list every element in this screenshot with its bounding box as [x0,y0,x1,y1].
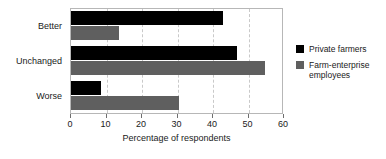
bar-unchanged-private-farmers [71,46,237,60]
x-axis-tick-labels: 0102030405060 [70,119,283,131]
x-axis-tick [141,114,142,118]
x-axis-tick-label: 30 [164,119,190,130]
bar-better-private-farmers [71,11,223,25]
x-axis-tick-label: 40 [199,119,225,130]
bar-worse-farm-enterprise-employees [71,96,179,110]
category-axis: Better Unchanged Worse [0,8,66,114]
x-axis-tick-label: 60 [270,119,296,130]
x-axis-tick-label: 20 [128,119,154,130]
bar-unchanged-farm-enterprise-employees [71,61,265,75]
bar-better-farm-enterprise-employees [71,26,119,40]
x-axis-tick [283,114,284,118]
bar-chart: Better Unchanged Worse 0102030405060 Per… [0,0,386,159]
bar-group-unchanged [71,46,282,76]
x-axis-tick [248,114,249,118]
x-axis-tick-label: 50 [235,119,261,130]
legend-swatch-icon-farm-enterprise-employees [296,61,304,69]
legend-label-private-farmers: Private farmers [309,44,367,54]
bar-group-worse [71,81,282,111]
bar-group-better [71,11,282,41]
legend-label-farm-enterprise-employees: Farm-enterprise employees [309,60,379,80]
x-axis-tick [70,114,71,118]
bar-worse-private-farmers [71,81,101,95]
x-axis-title: Percentage of respondents [70,133,283,144]
x-axis-tick-label: 10 [93,119,119,130]
legend-item-farm-enterprise-employees: Farm-enterprise employees [296,60,379,80]
legend-swatch-icon-private-farmers [296,45,304,53]
x-axis-tick-label: 0 [57,119,83,130]
plot-area [70,8,283,114]
x-axis-tick [177,114,178,118]
x-axis-tick [212,114,213,118]
category-label-better: Better [0,21,62,31]
category-label-worse: Worse [0,91,62,101]
legend-item-private-farmers: Private farmers [296,44,367,54]
category-label-unchanged: Unchanged [0,56,62,66]
x-axis-tick [106,114,107,118]
